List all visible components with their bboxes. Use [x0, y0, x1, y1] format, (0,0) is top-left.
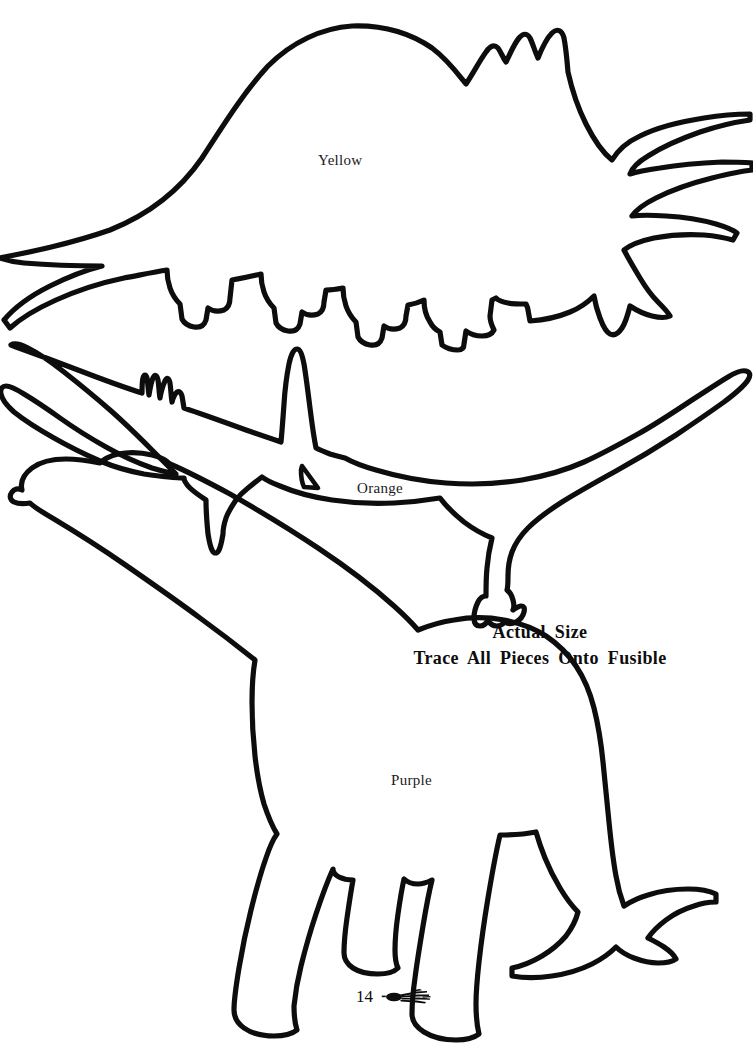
instructions-line-trace: Trace All Pieces Onto Fusible: [360, 646, 720, 672]
page-footer: 14: [356, 988, 373, 1005]
page-number: 14: [356, 988, 373, 1005]
needle-and-thread-ornament: [382, 989, 431, 1003]
pterodactyl-eye-hole: [301, 466, 318, 488]
brontosaurus-outline: [10, 453, 716, 1040]
dinosaur-pattern-artwork: [0, 0, 753, 1050]
pattern-page: Yellow Orange Purple Actual Size Trace A…: [0, 0, 753, 1050]
instructions-block: Actual Size Trace All Pieces Onto Fusibl…: [360, 620, 720, 671]
pattern-label-orange: Orange: [357, 480, 403, 497]
instructions-line-actual-size: Actual Size: [360, 620, 720, 646]
pattern-label-purple: Purple: [391, 772, 432, 789]
triceratops-outline: [0, 26, 752, 350]
pattern-label-yellow: Yellow: [318, 152, 362, 169]
